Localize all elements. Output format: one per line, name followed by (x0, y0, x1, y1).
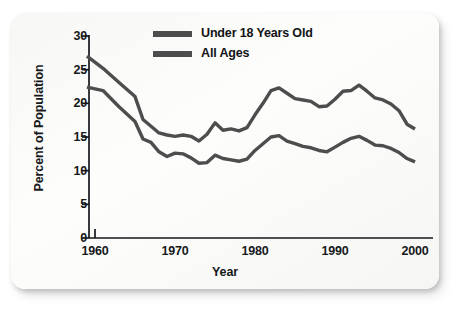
x-tick-label: 1980 (225, 245, 285, 258)
x-tick-label: 1970 (145, 245, 205, 258)
x-tick-label: 1990 (305, 245, 365, 258)
data-series-group (87, 56, 415, 163)
legend-item-under-18: Under 18 Years Old (153, 26, 313, 41)
x-tick-label: 2000 (385, 245, 445, 258)
legend-swatch-icon (153, 31, 192, 37)
y-tick-label: 25 (61, 64, 87, 77)
legend-item-all-ages: All Ages (153, 46, 313, 61)
figure-root: 051015202530 19601970198019902000 Percen… (0, 0, 459, 313)
legend-swatch-icon (153, 51, 192, 57)
y-tick-label: 20 (61, 97, 87, 110)
x-axis-tick-labels: 19601970198019902000 (11, 245, 439, 267)
y-tick-label: 5 (61, 198, 87, 211)
chart-legend: Under 18 Years Old All Ages (153, 26, 313, 61)
y-tick-label: 15 (61, 131, 87, 144)
y-axis-title: Percent of Population (32, 48, 46, 208)
series-line (87, 56, 415, 141)
y-tick-label: 0 (61, 232, 87, 245)
plot-area: 051015202530 19601970198019902000 Percen… (11, 13, 439, 289)
x-tick-label: 1960 (65, 245, 125, 258)
y-tick-label: 10 (61, 165, 87, 178)
legend-label: Under 18 Years Old (201, 27, 313, 40)
y-tick-label: 30 (61, 30, 87, 43)
chart-card: 051015202530 19601970198019902000 Percen… (11, 13, 439, 289)
x-axis-title: Year (11, 265, 439, 279)
legend-label: All Ages (201, 47, 249, 60)
